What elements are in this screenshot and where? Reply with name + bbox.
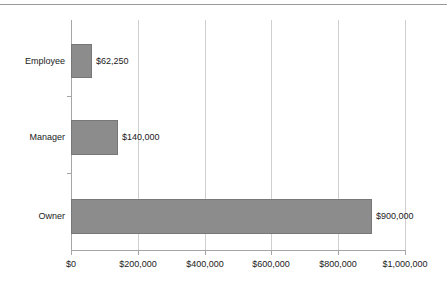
x-axis-label-600000: $600,000 [252, 259, 290, 269]
x-tick-600000 [271, 251, 272, 255]
y-tick-employee-manager [67, 96, 71, 97]
x-axis-line [71, 250, 406, 251]
bar-owner [71, 199, 372, 234]
bar-chart-figure: Employee Manager Owner $62,250 $140,000 … [0, 0, 447, 286]
x-tick-400000 [205, 251, 206, 255]
x-tick-200000 [138, 251, 139, 255]
x-axis-label-0: $0 [66, 259, 76, 269]
x-axis-label-1000000: $1,000,000 [382, 259, 427, 269]
value-label-employee: $62,250 [96, 56, 129, 66]
x-axis-label-800000: $800,000 [319, 259, 357, 269]
x-tick-800000 [338, 251, 339, 255]
bar-employee [71, 44, 92, 78]
value-label-manager: $140,000 [122, 132, 160, 142]
value-label-owner: $900,000 [376, 211, 414, 221]
x-tick-0 [71, 251, 72, 255]
y-tick-manager-owner [67, 173, 71, 174]
category-label-employee: Employee [25, 56, 65, 66]
category-label-owner: Owner [38, 211, 65, 221]
x-axis-label-200000: $200,000 [119, 259, 157, 269]
top-divider-rule [0, 4, 447, 5]
x-tick-1000000 [405, 251, 406, 255]
bar-manager [71, 120, 118, 155]
x-axis-label-400000: $400,000 [186, 259, 224, 269]
category-label-manager: Manager [29, 132, 65, 142]
